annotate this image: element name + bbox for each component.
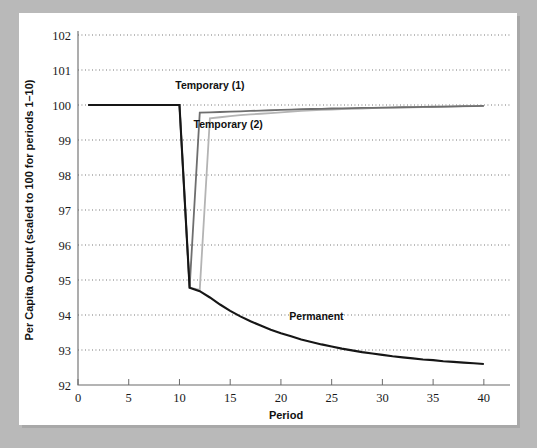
ytick-label-100: 100 (52, 99, 71, 113)
series-line-temporary-2 (88, 105, 484, 290)
xtick-label-5: 5 (126, 391, 132, 405)
xtick-label-15: 15 (224, 391, 237, 405)
chart-axes (78, 31, 510, 385)
ytick-label-93: 93 (59, 344, 72, 358)
series-line-permanent (88, 105, 484, 364)
series-label-temporary-2: Temporary (2) (194, 118, 263, 130)
series-label-temporary-1: Temporary (1) (175, 79, 244, 91)
xtick-label-25: 25 (325, 391, 338, 405)
series-line-temporary-1 (88, 105, 484, 288)
ytick-label-92: 92 (59, 379, 72, 393)
ytick-label-96: 96 (59, 239, 72, 253)
xtick-label-10: 10 (173, 391, 186, 405)
ytick-label-102: 102 (52, 29, 71, 43)
ytick-label-95: 95 (59, 274, 72, 288)
xtick-label-35: 35 (427, 391, 440, 405)
x-axis-title: Period (269, 409, 303, 421)
ytick-label-99: 99 (59, 134, 72, 148)
xtick-label-30: 30 (376, 391, 389, 405)
ytick-label-97: 97 (59, 204, 72, 218)
xtick-label-40: 40 (478, 391, 491, 405)
chart-plot-area: 9293949596979899100101102051015202530354… (0, 0, 537, 448)
ytick-label-94: 94 (59, 309, 72, 323)
xtick-label-0: 0 (75, 391, 81, 405)
y-axis-title: Per Capita Output (scaled to 100 for per… (23, 79, 35, 340)
ytick-label-101: 101 (52, 64, 71, 78)
series-label-permanent: Permanent (289, 310, 344, 322)
xtick-label-20: 20 (275, 391, 288, 405)
ytick-label-98: 98 (59, 169, 72, 183)
figure-frame: 9293949596979899100101102051015202530354… (0, 0, 537, 448)
line-chart: 9293949596979899100101102051015202530354… (0, 0, 537, 448)
